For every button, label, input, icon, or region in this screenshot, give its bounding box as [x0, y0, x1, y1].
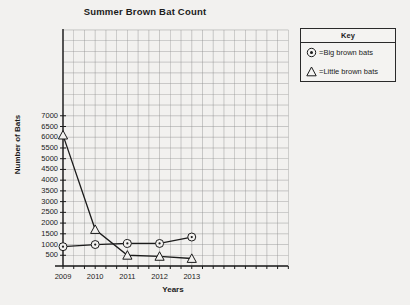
y-tick-label: 500	[24, 251, 58, 259]
legend-title: Key	[301, 29, 395, 43]
axis-lines	[55, 29, 288, 266]
y-tick-label: 2500	[24, 208, 58, 216]
y-tick-label: 4500	[24, 165, 58, 173]
legend-label-big-brown-bats: =Big brown bats	[319, 48, 373, 57]
y-tick-label: 6500	[24, 123, 58, 131]
chart-canvas: Summer Brown Bat Count Number of Bats Ye…	[0, 0, 410, 305]
y-tick-label: 5000	[24, 155, 58, 163]
legend-item-big-brown-bats: =Big brown bats	[301, 43, 395, 62]
triangle-icon	[305, 65, 318, 78]
y-tick-label: 3000	[24, 198, 58, 206]
y-tick-label: 7000	[24, 112, 58, 120]
y-tick-label: 2000	[24, 219, 58, 227]
circle-dot-icon	[305, 46, 318, 59]
y-tick-label: 4000	[24, 176, 58, 184]
x-tick-label: 2013	[172, 272, 212, 281]
legend-label-little-brown-bats: =Little brown bats	[319, 67, 378, 76]
y-tick-label: 6000	[24, 133, 58, 141]
y-tick-label: 1500	[24, 230, 58, 238]
legend-key-box: Key =Big brown bats =Little brown bats	[300, 28, 396, 82]
y-tick-label: 5500	[24, 144, 58, 152]
y-tick-label: 3500	[24, 187, 58, 195]
legend-item-little-brown-bats: =Little brown bats	[301, 62, 395, 81]
y-tick-label: 1000	[24, 241, 58, 249]
